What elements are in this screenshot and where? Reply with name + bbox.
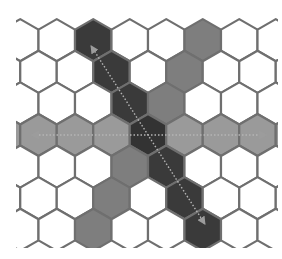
hex-grid-diagram (0, 0, 282, 259)
dark-diagonal-cell (185, 209, 222, 251)
empty-cell (112, 209, 149, 251)
empty-cell (148, 209, 185, 251)
empty-cell (0, 209, 2, 251)
empty-cell (39, 209, 76, 251)
empty-cell (0, 82, 2, 124)
empty-cell (221, 209, 258, 251)
hex-grid-canvas (0, 0, 282, 259)
empty-cell (0, 19, 2, 61)
empty-cell (2, 209, 39, 251)
gray-diagonal-cell (75, 209, 112, 251)
empty-cell (0, 146, 2, 188)
